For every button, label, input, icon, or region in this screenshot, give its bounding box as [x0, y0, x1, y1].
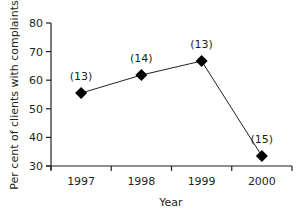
data-series: (13)(14)(13)(15): [70, 38, 273, 162]
line-chart: 304050607080 1997199819992000 (13)(14)(1…: [0, 0, 302, 212]
y-tick-label: 60: [29, 74, 43, 87]
x-axis-title: Year: [158, 196, 183, 209]
x-tick-label: 1998: [127, 175, 155, 188]
diamond-marker: [135, 69, 147, 81]
x-tick-label: 2000: [248, 175, 276, 188]
y-axis: 304050607080: [29, 17, 51, 173]
y-tick-label: 80: [29, 17, 43, 30]
x-tick-label: 1997: [67, 175, 95, 188]
y-tick-label: 40: [29, 131, 43, 144]
y-tick-label: 50: [29, 103, 43, 116]
y-axis-title: Per cent of clients with complaints: [8, 0, 21, 190]
data-label: (13): [190, 38, 213, 51]
y-tick-label: 30: [29, 160, 43, 173]
x-tick-label: 1999: [188, 175, 216, 188]
data-label: (14): [130, 52, 153, 65]
data-label: (13): [70, 70, 93, 83]
x-axis: 1997199819992000: [46, 166, 292, 188]
diamond-marker: [256, 150, 268, 162]
y-tick-label: 70: [29, 46, 43, 59]
diamond-marker: [75, 87, 87, 99]
diamond-marker: [196, 55, 208, 67]
data-label: (15): [251, 133, 274, 146]
series-line: [81, 61, 262, 156]
